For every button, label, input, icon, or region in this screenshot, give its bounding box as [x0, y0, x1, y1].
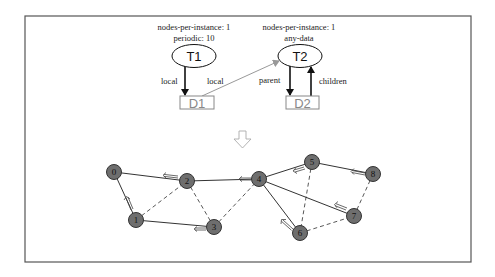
- network-graph: 0 1 2 3 4 5 6 7: [107, 155, 381, 241]
- solid-edge-5-8: [312, 162, 373, 174]
- task-t1-label: T1: [186, 49, 201, 64]
- network-node-6: 6: [293, 226, 308, 241]
- network-node-2-label: 2: [185, 176, 190, 186]
- task-t1: T1: [172, 45, 216, 68]
- network-node-2: 2: [180, 174, 195, 189]
- network-node-3: 3: [207, 220, 222, 235]
- network-node-0-label: 0: [112, 167, 117, 177]
- network-node-7: 7: [347, 209, 362, 224]
- hollow-down-arrow-icon: [234, 131, 251, 148]
- flow-arrow-icon: [163, 173, 178, 179]
- data-d1-label: D1: [189, 96, 206, 111]
- task-t2-label: T2: [292, 49, 307, 64]
- data-d2: D2: [286, 96, 319, 111]
- network-node-5-label: 5: [310, 157, 315, 167]
- network-node-4: 4: [252, 172, 267, 187]
- solid-edge-0-2: [114, 172, 187, 181]
- t1-attribute-nodes-per-instance: nodes-per-instance: 1: [158, 22, 231, 32]
- t2-attribute-nodes-per-instance: nodes-per-instance: 1: [263, 22, 336, 32]
- dashed-edge-6-7: [300, 216, 354, 233]
- edge-label-t2-d2: parent: [259, 75, 281, 85]
- flow-arrow-icon: [124, 197, 133, 211]
- task-graph: nodes-per-instance: 1 periodic: 10 nodes…: [158, 22, 348, 111]
- network-node-7-label: 7: [352, 211, 357, 221]
- flow-arrow-icon: [194, 227, 206, 232]
- t2-attribute-any-data: any-data: [284, 33, 313, 43]
- network-node-6-label: 6: [298, 228, 303, 238]
- network-node-8: 8: [366, 167, 381, 182]
- edge-label-d2-t2: children: [319, 76, 348, 86]
- network-node-5: 5: [305, 155, 320, 170]
- task-t2: T2: [278, 45, 322, 68]
- dashed-edge-1-2: [136, 181, 187, 220]
- solid-edge-1-3: [136, 220, 214, 227]
- diagram-canvas: nodes-per-instance: 1 periodic: 10 nodes…: [0, 0, 495, 277]
- dashed-edge-3-4: [214, 179, 259, 227]
- data-d2-label: D2: [294, 96, 311, 111]
- network-node-1-label: 1: [134, 215, 139, 225]
- t1-attribute-periodic: periodic: 10: [174, 33, 215, 43]
- network-node-8-label: 8: [371, 169, 376, 179]
- network-node-4-label: 4: [257, 174, 262, 184]
- solid-edge-4-5: [259, 162, 312, 179]
- network-node-3-label: 3: [212, 222, 217, 232]
- network-node-1: 1: [129, 213, 144, 228]
- edge-label-t1-d1: local: [161, 76, 178, 86]
- edge-label-d1-t2: local: [207, 76, 224, 86]
- data-d1: D1: [180, 96, 214, 111]
- network-node-0: 0: [107, 165, 122, 180]
- dashed-edge-2-3: [187, 181, 214, 227]
